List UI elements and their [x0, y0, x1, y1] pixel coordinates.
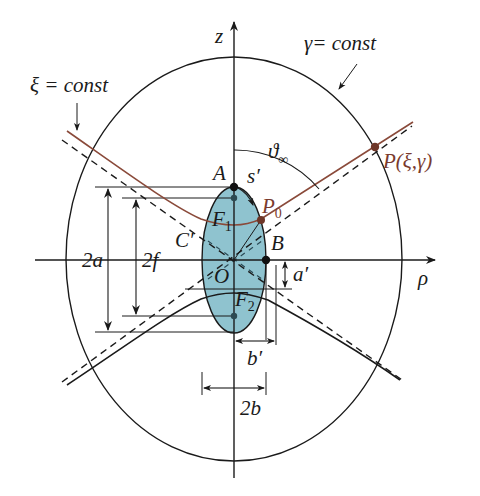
gamma-const-text: γ= const — [304, 31, 377, 55]
theta-subscript: ∞ — [278, 152, 288, 167]
point-F2 — [231, 313, 237, 319]
point-A — [230, 183, 238, 191]
label-B: B — [271, 231, 284, 255]
theta-infinity-label: ϑ∞ — [268, 139, 288, 167]
label-s-prime: s′ — [247, 164, 260, 188]
label-O: O — [214, 264, 229, 288]
label-b-prime: b′ — [247, 346, 263, 370]
label-2b: 2b — [240, 396, 261, 420]
label-2a: 2a — [82, 248, 103, 272]
label-P0: P0 — [261, 194, 282, 221]
point-B — [262, 256, 270, 264]
xi-const-text: ξ = const — [30, 73, 109, 97]
gamma-label-pointer — [339, 64, 357, 89]
gamma-const-label: γ= const — [304, 31, 377, 55]
label-A: A — [211, 161, 226, 185]
point-P — [371, 143, 379, 151]
label-C-prime: C′ — [175, 228, 194, 252]
xi-const-label: ξ = const — [30, 73, 109, 97]
point-F1 — [231, 195, 237, 201]
z-axis-label: z — [214, 24, 223, 48]
diagram-canvas: z ρ ξ = const γ= const ϑ∞ A s′ P0 F1 C′ … — [0, 0, 480, 496]
label-P-xi-gamma: P(ξ,γ) — [382, 149, 432, 173]
rho-axis-label: ρ — [417, 266, 428, 290]
label-a-prime: a′ — [293, 262, 309, 286]
